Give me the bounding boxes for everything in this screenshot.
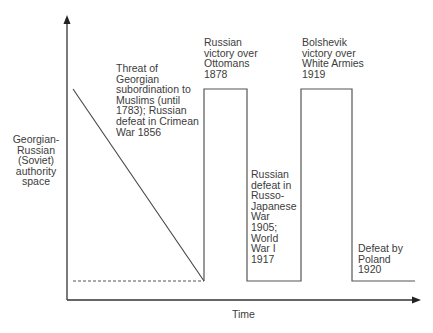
annotation-bolshevik: Bolshevik victory over White Armies 1919 (302, 37, 364, 79)
annotation-russo-japanese: Russian defeat in Russo- Japanese War 19… (251, 169, 297, 264)
y-axis-arrow-icon (64, 15, 71, 24)
annotation-poland: Defeat by Poland 1920 (358, 243, 403, 275)
annotation-ottomans: Russian victory over Ottomans 1878 (204, 37, 258, 79)
annotation-threat: Threat of Georgian subordination to Musl… (116, 63, 199, 137)
x-axis-label: Time (232, 309, 255, 320)
y-axis-label: Georgian- Russian (Soviet) authority spa… (4, 134, 68, 187)
x-axis-arrow-icon (412, 297, 421, 304)
